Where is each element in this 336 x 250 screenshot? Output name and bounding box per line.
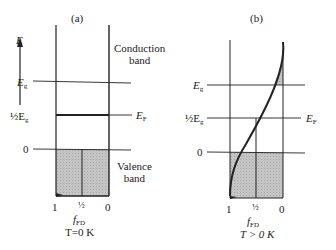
ef-label-b: EF <box>306 112 317 128</box>
tick-half-a: ½ <box>78 199 85 211</box>
half-eg-label-b: ½Eg <box>185 112 203 128</box>
panel-b-title: (b) <box>250 12 263 24</box>
tick-1-a: 1 <box>52 201 58 213</box>
zero-label-a: 0 <box>23 143 29 155</box>
eg-label-a: Eg <box>17 76 27 92</box>
tick-0-a: 0 <box>105 201 111 213</box>
tick-1-b: 1 <box>226 203 232 215</box>
ef-label-a: EF <box>136 109 147 125</box>
tick-half-b: ½ <box>252 201 259 213</box>
conduction-band-label: Conduction band <box>114 42 165 66</box>
panel-b-lines <box>207 40 305 199</box>
diagram-graphics <box>0 0 336 250</box>
tick-0-b: 0 <box>279 203 285 215</box>
condition-b: T > 0 K <box>240 228 274 240</box>
eg-label-b: Eg <box>193 79 203 95</box>
panel-a-title: (a) <box>71 12 83 24</box>
valence-band-label: Valence band <box>117 160 152 184</box>
zero-label-b: 0 <box>197 146 203 158</box>
condition-a: T=0 K <box>65 226 94 238</box>
energy-axis-label: E <box>16 34 23 46</box>
half-eg-label-a: ½Eg <box>10 110 28 126</box>
